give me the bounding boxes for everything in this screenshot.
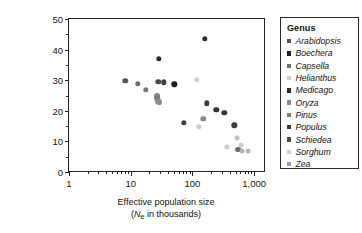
y-tick-label: 50 [52, 14, 63, 25]
legend-item[interactable]: Populus [287, 121, 358, 133]
x-tick-minor [88, 171, 89, 174]
data-point [201, 116, 206, 121]
x-tick-minor [186, 171, 187, 174]
data-point [214, 107, 219, 112]
y-tick-minor [66, 65, 69, 66]
legend-item[interactable]: Boechera [287, 47, 358, 59]
data-point [232, 123, 237, 128]
data-point [194, 77, 199, 82]
x-tick-label: 100 [184, 178, 200, 189]
legend-item-label: Schiedea [295, 135, 331, 145]
legend-item-label: Medicago [295, 85, 333, 95]
legend-item-label: Oryza [295, 98, 318, 108]
x-tick-minor [251, 171, 252, 174]
legend-item-label: Pinus [295, 110, 317, 120]
scatter-figure: % effectively neutral mutations at repla… [0, 0, 362, 233]
y-tick-major [65, 80, 70, 81]
legend-item[interactable]: Zea [287, 158, 358, 170]
legend-item-label: Helianthus [295, 73, 336, 83]
data-point [123, 78, 128, 83]
legend-swatch-icon [287, 39, 291, 43]
y-tick-minor [66, 126, 69, 127]
data-point [246, 148, 251, 153]
y-tick-minor [66, 157, 69, 158]
legend-item-label: Boechera [295, 48, 332, 58]
data-point [240, 148, 245, 153]
x-tick-minor [128, 171, 129, 174]
legend-swatch-icon [287, 88, 291, 92]
y-tick-label: 20 [52, 105, 63, 116]
x-tick-minor [179, 171, 180, 174]
y-tick-label: 10 [52, 136, 63, 147]
y-tick-major [65, 19, 70, 20]
x-tick-label: 10 [125, 178, 136, 189]
legend-item[interactable]: Pinus [287, 109, 358, 121]
legend-item-label: Populus [295, 122, 326, 132]
legend-swatch-icon [287, 150, 291, 154]
x-tick-minor [248, 171, 249, 174]
legend-swatch-icon [287, 51, 291, 55]
legend-item[interactable]: Sorghum [287, 146, 358, 158]
x-axis-title-line1: Effective population size [68, 196, 264, 208]
y-tick-label: 30 [52, 75, 63, 86]
legend-item-label: Sorghum [295, 147, 330, 157]
data-point [222, 110, 227, 115]
legend-item[interactable]: Capsella [287, 60, 358, 72]
legend-item-list: ArabidopsisBoecheraCapsellaHelianthusMed… [287, 35, 358, 170]
x-tick-minor [236, 171, 237, 174]
x-tick-minor [121, 171, 122, 174]
x-tick-label: 1,000 [242, 178, 266, 189]
x-tick-minor [240, 171, 241, 174]
legend-item-label: Capsella [295, 61, 329, 71]
x-tick-minor [125, 171, 126, 174]
data-point [135, 81, 140, 86]
x-tick-label: 1 [66, 178, 71, 189]
legend-swatch-icon [287, 64, 291, 68]
x-tick-major [192, 171, 193, 176]
legend-item[interactable]: Schiedea [287, 133, 358, 145]
y-tick-major [65, 111, 70, 112]
legend-item[interactable]: Medicago [287, 84, 358, 96]
data-point [204, 101, 209, 106]
x-tick-major [254, 171, 255, 176]
legend-item-label: Zea [295, 159, 310, 169]
legend-item[interactable]: Arabidopsis [287, 35, 358, 47]
x-tick-minor [183, 171, 184, 174]
x-axis-title-suffix: in thousands) [144, 209, 201, 219]
legend-item[interactable]: Oryza [287, 96, 358, 108]
data-point [181, 120, 186, 125]
legend-title: Genus [287, 23, 358, 33]
data-point [172, 81, 177, 86]
legend-item[interactable]: Helianthus [287, 72, 358, 84]
data-point [239, 143, 244, 148]
legend-box: Genus ArabidopsisBoecheraCapsellaHeliant… [280, 17, 359, 169]
data-point [225, 144, 230, 149]
x-tick-minor [211, 171, 212, 174]
y-tick-major [65, 50, 70, 51]
x-tick-minor [112, 171, 113, 174]
x-axis-title-line2: (Ne in thousands) [68, 208, 264, 223]
x-tick-minor [222, 171, 223, 174]
legend-swatch-icon [287, 125, 291, 129]
x-tick-minor [117, 171, 118, 174]
data-point [143, 87, 148, 92]
data-point [196, 124, 201, 129]
plot-area: 010203040501101001,000 [68, 19, 264, 172]
legend-swatch-icon [287, 100, 291, 104]
data-point [161, 80, 166, 85]
data-point [156, 56, 161, 61]
x-tick-minor [98, 171, 99, 174]
legend-swatch-icon [287, 113, 291, 117]
x-tick-minor [190, 171, 191, 174]
x-tick-major [131, 171, 132, 176]
legend-swatch-icon [287, 76, 291, 80]
legend-swatch-icon [287, 162, 291, 166]
legend-item-label: Arabidopsis [295, 36, 340, 46]
y-tick-label: 40 [52, 44, 63, 55]
x-tick-minor [106, 171, 107, 174]
x-tick-minor [245, 171, 246, 174]
y-tick-label: 0 [58, 167, 63, 178]
data-point [156, 99, 162, 105]
legend-swatch-icon [287, 137, 291, 141]
x-tick-minor [168, 171, 169, 174]
